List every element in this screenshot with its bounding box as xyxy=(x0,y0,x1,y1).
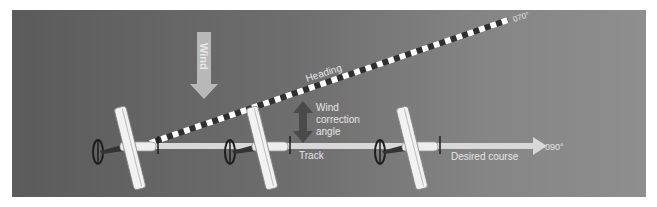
aircraft-2 xyxy=(225,106,290,190)
aircraft-1 xyxy=(93,106,158,190)
wind-arrow: Wind xyxy=(190,32,218,99)
wca-label-line3: angle xyxy=(316,126,341,137)
track-label: Track xyxy=(299,150,325,161)
heading-value-label: 070° xyxy=(512,10,531,24)
wca-label-line2: correction xyxy=(316,114,360,125)
course-value-label: 090° xyxy=(545,142,564,152)
wind-label: Wind xyxy=(198,43,210,70)
aircraft-3 xyxy=(375,106,440,190)
wind-correction-diagram: Wind Heading 070° Wind correction angle … xyxy=(0,0,657,207)
desired-course-label: Desired course xyxy=(451,151,519,162)
wind-correction-angle-arrow xyxy=(293,101,313,143)
wca-label-line1: Wind xyxy=(316,102,339,113)
